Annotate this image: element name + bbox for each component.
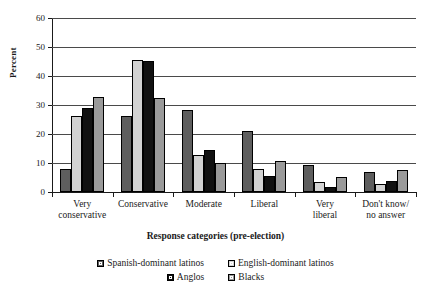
gridline bbox=[52, 47, 416, 48]
bar bbox=[182, 110, 193, 192]
x-axis-category-label: Don't know/no answer bbox=[355, 199, 416, 221]
legend-label: English-dominant latinos bbox=[238, 256, 334, 270]
x-axis-tick-mark bbox=[234, 192, 235, 197]
bar-group bbox=[121, 18, 165, 192]
x-axis-category-label-line: Don't know/ bbox=[355, 199, 416, 210]
gridline bbox=[52, 18, 416, 19]
bar bbox=[204, 150, 215, 192]
legend-item-spanish-dominant-latinos: Spanish-dominant latinos bbox=[97, 256, 204, 270]
bar-chart-figure: Percent 0102030405060 VeryconservativeCo… bbox=[0, 0, 431, 298]
bar bbox=[193, 155, 204, 192]
plot-area: 0102030405060 bbox=[52, 18, 416, 192]
bar bbox=[242, 131, 253, 192]
bar-group bbox=[182, 18, 226, 192]
y-axis-tick-label: 60 bbox=[36, 14, 45, 23]
bar bbox=[325, 187, 336, 192]
legend-row-1: Spanish-dominant latinos English-dominan… bbox=[0, 256, 431, 270]
x-axis-category-label: Liberal bbox=[234, 199, 295, 210]
x-axis-category-label-line: Moderate bbox=[173, 199, 234, 210]
bar-group bbox=[364, 18, 408, 192]
bar bbox=[275, 161, 286, 192]
y-axis-tick-label: 20 bbox=[36, 130, 45, 139]
bar bbox=[364, 172, 375, 192]
bar bbox=[215, 163, 226, 192]
x-axis-category-label-line: Very bbox=[295, 199, 356, 210]
x-axis-category-label: Veryliberal bbox=[295, 199, 356, 221]
x-axis-category-label-line: Liberal bbox=[234, 199, 295, 210]
y-axis-tick-label: 0 bbox=[41, 188, 46, 197]
legend-label: Anglos bbox=[177, 270, 204, 284]
legend-item-blacks: Blacks bbox=[228, 270, 264, 284]
x-axis-category-label-line: liberal bbox=[295, 210, 356, 221]
x-axis-tick-mark bbox=[113, 192, 114, 197]
bar bbox=[264, 176, 275, 192]
x-axis-tick-mark bbox=[295, 192, 296, 197]
x-axis-tick-mark bbox=[416, 192, 417, 197]
bar bbox=[386, 181, 397, 192]
legend-swatch-icon bbox=[97, 260, 104, 267]
gridline bbox=[52, 163, 416, 164]
bar bbox=[71, 116, 82, 192]
chart-legend: Spanish-dominant latinos English-dominan… bbox=[0, 256, 431, 284]
legend-label: Blacks bbox=[238, 270, 264, 284]
legend-item-anglos: Anglos bbox=[167, 270, 204, 284]
bar bbox=[375, 184, 386, 192]
y-axis-tick-label: 10 bbox=[36, 159, 45, 168]
y-axis-tick-mark bbox=[48, 134, 52, 135]
bar bbox=[397, 170, 408, 192]
bar-group bbox=[303, 18, 347, 192]
bar bbox=[82, 108, 93, 192]
x-axis-category-label: Moderate bbox=[173, 199, 234, 210]
bar bbox=[253, 169, 264, 192]
y-axis-title: Percent bbox=[8, 47, 18, 78]
bar bbox=[121, 116, 132, 192]
y-axis-tick-label: 50 bbox=[36, 43, 45, 52]
legend-item-english-dominant-latinos: English-dominant latinos bbox=[228, 256, 334, 270]
bar-group bbox=[242, 18, 286, 192]
y-axis-tick-label: 30 bbox=[36, 101, 45, 110]
gridline bbox=[52, 134, 416, 135]
bar bbox=[314, 182, 325, 192]
bar bbox=[143, 61, 154, 192]
y-axis-tick-mark bbox=[48, 47, 52, 48]
legend-label: Spanish-dominant latinos bbox=[107, 256, 204, 270]
y-axis-tick-label: 40 bbox=[36, 72, 45, 81]
legend-swatch-icon bbox=[228, 260, 235, 267]
x-axis-title: Response categories (pre-election) bbox=[0, 231, 431, 241]
bar bbox=[93, 97, 104, 192]
gridline bbox=[52, 76, 416, 77]
y-axis-tick-mark bbox=[48, 163, 52, 164]
y-axis-tick-mark bbox=[48, 18, 52, 19]
gridline bbox=[52, 105, 416, 106]
bar bbox=[132, 60, 143, 192]
bar bbox=[303, 165, 314, 192]
x-axis-tick-mark bbox=[173, 192, 174, 197]
x-axis-category-label-line: no answer bbox=[355, 210, 416, 221]
x-axis-category-label-line: Conservative bbox=[113, 199, 174, 210]
legend-row-2: Anglos Blacks bbox=[0, 270, 431, 284]
x-axis-category-label-line: conservative bbox=[52, 210, 113, 221]
x-axis-tick-mark bbox=[355, 192, 356, 197]
x-axis-category-label: Conservative bbox=[113, 199, 174, 210]
bar bbox=[154, 98, 165, 192]
legend-swatch-icon bbox=[228, 274, 235, 281]
x-axis-category-label: Veryconservative bbox=[52, 199, 113, 221]
y-axis-tick-mark bbox=[48, 105, 52, 106]
x-axis-tick-mark bbox=[52, 192, 53, 197]
bar bbox=[336, 177, 347, 192]
bar-group bbox=[60, 18, 104, 192]
legend-swatch-icon bbox=[167, 274, 174, 281]
bar bbox=[60, 169, 71, 192]
x-axis-category-label-line: Very bbox=[52, 199, 113, 210]
y-axis-tick-mark bbox=[48, 76, 52, 77]
